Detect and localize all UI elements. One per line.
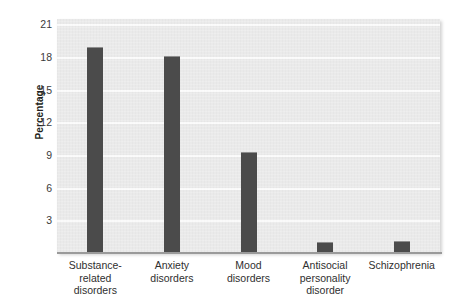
x-axis-tick-label: Substance-relateddisorders	[57, 259, 134, 297]
y-axis-tick-label: 3	[22, 215, 52, 226]
y-axis-tick-label: 6	[22, 182, 52, 193]
bar[interactable]	[164, 56, 180, 253]
y-axis-tick-label: 21	[22, 19, 52, 30]
x-axis-tick-label: Antisocialpersonalitydisorder	[287, 259, 364, 297]
x-axis-tick-labels: Substance-relateddisordersAnxietydisorde…	[57, 259, 440, 305]
x-axis-tick-label-line: Antisocial	[287, 259, 364, 272]
x-axis-tick-label-line: Substance-	[57, 259, 134, 272]
x-axis-tick-label: Anxietydisorders	[134, 259, 211, 284]
x-axis-tick-label-line: disorder	[287, 284, 364, 297]
y-axis-tick-label: 12	[22, 117, 52, 128]
x-axis-tick-label-line: Schizophrenia	[363, 259, 440, 272]
x-axis-tick-label-line: disorders	[57, 284, 134, 297]
y-axis-tick-label: 15	[22, 84, 52, 95]
y-axis-tick-labels: 36912151821	[22, 12, 52, 254]
y-axis-tick-label: 18	[22, 52, 52, 63]
bar-chart-figure: Percentage 36912151821 Substance-related…	[0, 0, 463, 308]
x-axis-line	[57, 252, 442, 254]
x-axis-tick-label: Mooddisorders	[210, 259, 287, 284]
x-axis-tick-label-line: Mood	[210, 259, 287, 272]
x-axis-tick-label: Schizophrenia	[363, 259, 440, 272]
bar[interactable]	[241, 152, 257, 253]
plot-area	[57, 19, 440, 253]
bar[interactable]	[87, 47, 103, 253]
x-axis-tick-label-line: Anxiety	[134, 259, 211, 272]
x-axis-tick-label-line: disorders	[210, 272, 287, 285]
x-axis-tick-label-line: personality	[287, 272, 364, 285]
x-axis-tick-label-line: related	[57, 272, 134, 285]
x-axis-tick-label-line: disorders	[134, 272, 211, 285]
bars-layer	[57, 19, 440, 253]
y-axis-tick-label: 9	[22, 150, 52, 161]
